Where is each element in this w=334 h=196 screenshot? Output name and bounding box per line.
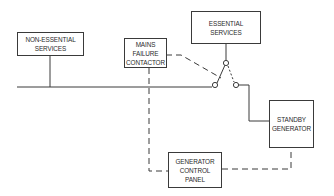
switch-alt-position: [228, 66, 234, 82]
non-essential-label-2: SERVICES: [35, 44, 66, 53]
control-panel-label-3: PANEL: [185, 175, 205, 184]
essential-label-2: SERVICES: [210, 28, 241, 37]
switch-contact-left: [212, 82, 217, 87]
control-panel-label-1: GENERATOR: [176, 157, 215, 166]
essential-label-1: ESSENTIAL: [209, 19, 243, 28]
switch-contact-right: [233, 82, 238, 87]
non-essential-label-1: NON-ESSENTIAL: [25, 35, 75, 44]
contactor-actuator-line: [166, 55, 221, 78]
essential-services-box: ESSENTIAL SERVICES: [191, 11, 261, 44]
standby-label-1: STANDBY: [277, 115, 306, 124]
wiring-diagram: [0, 0, 334, 196]
standby-feed-line: [239, 85, 269, 121]
mains-failure-contactor-box: MAINS FAILURE CONTACTOR: [124, 38, 167, 68]
generator-control-panel-box: GENERATOR CONTROL PANEL: [168, 152, 222, 188]
switch-blade: [217, 65, 225, 83]
generator-to-panel-line: [222, 147, 291, 169]
mains-failure-label-1: MAINS: [136, 40, 156, 49]
contactor-to-panel-line: [149, 68, 168, 171]
standby-label-2: GENERATOR: [272, 124, 311, 133]
standby-generator-box: STANDBY GENERATOR: [269, 100, 314, 148]
mains-failure-label-3: CONTACTOR: [126, 58, 165, 67]
control-panel-label-2: CONTROL: [180, 166, 211, 175]
switch-contact-top: [223, 60, 228, 65]
mains-failure-label-2: FAILURE: [133, 49, 159, 58]
non-essential-services-box: NON-ESSENTIAL SERVICES: [17, 32, 84, 56]
